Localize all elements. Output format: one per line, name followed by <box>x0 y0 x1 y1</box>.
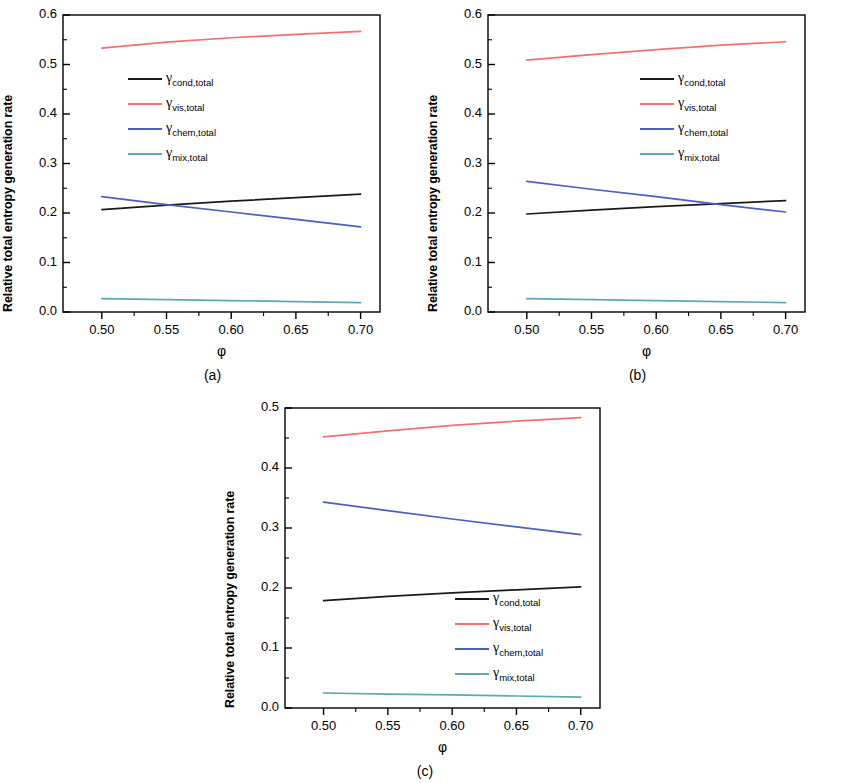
legend-swatch-chem-icon <box>640 128 674 130</box>
x-tick-label: 0.55 <box>139 322 195 337</box>
y-tick-label: 0.4 <box>15 105 57 120</box>
series-line-mix <box>324 693 581 697</box>
y-axis-label-c: Relative total entropy generation rate <box>223 491 237 708</box>
x-tick-label: 0.65 <box>693 322 749 337</box>
legend-item-vis: γvis,total <box>640 91 728 116</box>
y-tick-label: 0.6 <box>440 6 482 21</box>
x-tick-label: 0.65 <box>488 718 544 733</box>
series-line-vis <box>527 42 786 60</box>
x-axis-label-b: φ <box>488 343 805 359</box>
y-tick-label: 0.1 <box>15 254 57 269</box>
y-tick-label: 0.0 <box>15 303 57 318</box>
legend-label-mix: γmix,total <box>678 145 720 163</box>
y-tick-label: 0.3 <box>440 155 482 170</box>
chart-panel-c: Relative total entropy generation rate φ… <box>200 390 650 783</box>
legend-label-mix: γmix,total <box>166 145 208 163</box>
legend-swatch-cond-icon <box>128 78 162 80</box>
x-tick-label: 0.70 <box>553 718 609 733</box>
y-tick-label: 0.3 <box>237 519 279 534</box>
legend-swatch-cond-icon <box>640 78 674 80</box>
x-tick-label: 0.50 <box>296 718 352 733</box>
x-tick-label: 0.60 <box>628 322 684 337</box>
legend-item-chem: γchem,total <box>455 636 543 661</box>
y-tick-label: 0.0 <box>237 699 279 714</box>
legend-label-chem: γchem,total <box>166 120 216 138</box>
legend-item-chem: γchem,total <box>128 116 216 141</box>
legend-swatch-chem-icon <box>455 648 489 650</box>
legend-item-vis: γvis,total <box>455 611 543 636</box>
x-axis-label-a: φ <box>63 343 380 359</box>
series-line-vis <box>102 31 361 48</box>
legend-swatch-vis-icon <box>455 623 489 625</box>
legend-a: γcond,totalγvis,totalγchem,totalγmix,tot… <box>128 66 216 166</box>
legend-item-cond: γcond,total <box>640 66 728 91</box>
y-axis-label-b: Relative total entropy generation rate <box>426 95 440 312</box>
panel-caption-b: (b) <box>425 367 850 383</box>
legend-swatch-cond-icon <box>455 598 489 600</box>
series-line-mix <box>527 299 786 303</box>
x-tick-label: 0.60 <box>203 322 259 337</box>
x-tick-label: 0.65 <box>268 322 324 337</box>
y-tick-label: 0.2 <box>237 579 279 594</box>
y-axis-label-a: Relative total entropy generation rate <box>1 95 15 312</box>
legend-swatch-mix-icon <box>455 673 489 675</box>
legend-item-cond: γcond,total <box>128 66 216 91</box>
y-tick-label: 0.3 <box>15 155 57 170</box>
y-tick-label: 0.2 <box>440 204 482 219</box>
y-tick-label: 0.5 <box>237 399 279 414</box>
x-tick-label: 0.55 <box>360 718 416 733</box>
legend-label-vis: γvis,total <box>166 95 204 113</box>
legend-label-cond: γcond,total <box>166 70 213 88</box>
y-tick-label: 0.5 <box>440 56 482 71</box>
legend-c: γcond,totalγvis,totalγchem,totalγmix,tot… <box>455 586 543 686</box>
legend-item-cond: γcond,total <box>455 586 543 611</box>
figure-root: Relative total entropy generation rate φ… <box>0 0 850 783</box>
legend-item-mix: γmix,total <box>128 141 216 166</box>
series-line-mix <box>102 299 361 303</box>
legend-label-chem: γchem,total <box>493 640 543 658</box>
legend-swatch-mix-icon <box>640 153 674 155</box>
y-tick-label: 0.0 <box>440 303 482 318</box>
y-tick-label: 0.4 <box>440 105 482 120</box>
y-tick-label: 0.2 <box>15 204 57 219</box>
legend-swatch-mix-icon <box>128 153 162 155</box>
legend-swatch-vis-icon <box>128 103 162 105</box>
y-tick-label: 0.1 <box>440 254 482 269</box>
legend-label-cond: γcond,total <box>493 590 540 608</box>
x-tick-label: 0.70 <box>333 322 389 337</box>
legend-label-chem: γchem,total <box>678 120 728 138</box>
legend-item-mix: γmix,total <box>455 661 543 686</box>
panel-caption-a: (a) <box>0 367 425 383</box>
legend-label-vis: γvis,total <box>493 615 531 633</box>
series-line-vis <box>324 418 581 437</box>
x-axis-label-c: φ <box>285 739 600 755</box>
chart-panel-a: Relative total entropy generation rate φ… <box>0 0 425 390</box>
chart-panel-b: Relative total entropy generation rate φ… <box>425 0 850 390</box>
legend-item-mix: γmix,total <box>640 141 728 166</box>
legend-item-vis: γvis,total <box>128 91 216 116</box>
legend-label-cond: γcond,total <box>678 70 725 88</box>
y-tick-label: 0.5 <box>15 56 57 71</box>
panel-caption-c: (c) <box>200 763 650 779</box>
y-tick-label: 0.6 <box>15 6 57 21</box>
y-tick-label: 0.4 <box>237 459 279 474</box>
legend-label-vis: γvis,total <box>678 95 716 113</box>
x-tick-label: 0.50 <box>499 322 555 337</box>
y-tick-label: 0.1 <box>237 639 279 654</box>
legend-item-chem: γchem,total <box>640 116 728 141</box>
legend-swatch-vis-icon <box>640 103 674 105</box>
legend-swatch-chem-icon <box>128 128 162 130</box>
x-tick-label: 0.55 <box>564 322 620 337</box>
legend-b: γcond,totalγvis,totalγchem,totalγmix,tot… <box>640 66 728 166</box>
legend-label-mix: γmix,total <box>493 665 535 683</box>
series-line-chem <box>324 502 581 534</box>
x-tick-label: 0.60 <box>424 718 480 733</box>
x-tick-label: 0.50 <box>74 322 130 337</box>
x-tick-label: 0.70 <box>758 322 814 337</box>
